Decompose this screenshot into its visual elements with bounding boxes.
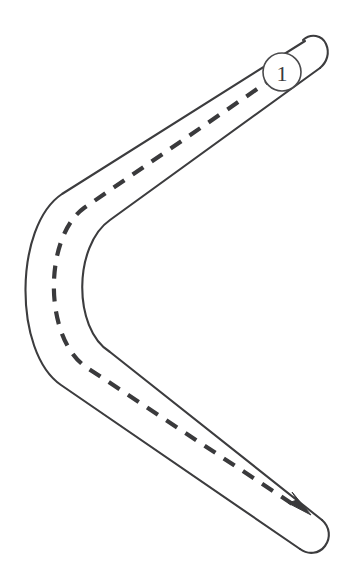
route-diagram-canvas: 1 1: [0, 0, 350, 572]
road-surface-fill: [24, 36, 328, 553]
waypoint-badge-label: 1: [277, 61, 288, 86]
road-body: [24, 36, 328, 553]
route-diagram-svg: 1: [0, 0, 350, 572]
waypoint-badge-1[interactable]: 1: [263, 53, 301, 91]
